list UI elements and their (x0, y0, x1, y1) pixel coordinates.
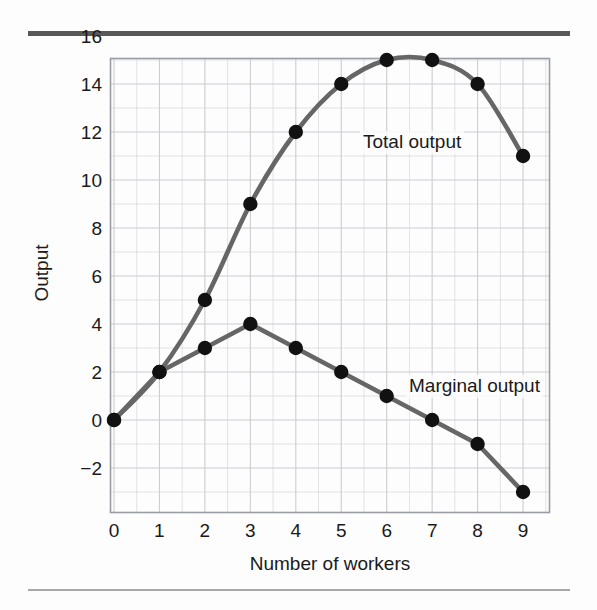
x-axis-title: Number of workers (110, 553, 550, 575)
y-axis-tick-label: 2 (58, 363, 102, 382)
series-label-marginal-output: Marginal output (406, 375, 543, 398)
y-axis-tick-label: 6 (58, 267, 102, 286)
data-point-total-output (243, 197, 257, 211)
data-point-total-output (334, 77, 348, 91)
x-axis-tick-label: 5 (336, 521, 347, 540)
data-point-total-output (289, 125, 303, 139)
data-point-marginal-output (198, 341, 212, 355)
y-axis-tick-label: 12 (58, 123, 102, 142)
data-point-marginal-output (470, 437, 484, 451)
y-axis-tick-label: 0 (58, 411, 102, 430)
y-axis-tick-label: 8 (58, 219, 102, 238)
figure-container: Output Number of workers 1614121086420−2… (0, 0, 597, 610)
x-axis-tick-label: 9 (518, 521, 529, 540)
data-point-marginal-output (107, 413, 121, 427)
x-axis-tick-label: 6 (381, 521, 392, 540)
data-point-marginal-output (289, 341, 303, 355)
x-axis-tick-label: 4 (291, 521, 302, 540)
data-point-total-output (380, 53, 394, 67)
series-label-total-output: Total output (360, 131, 464, 154)
x-axis-tick-label: 7 (427, 521, 438, 540)
y-axis-tick-label: 10 (58, 171, 102, 190)
x-axis-tick-label: 1 (154, 521, 165, 540)
x-axis-tick-label: 3 (245, 521, 256, 540)
y-axis-tick-label: 14 (58, 75, 102, 94)
x-axis-tick-label: 8 (472, 521, 483, 540)
x-axis-tick-label: 2 (200, 521, 211, 540)
data-point-marginal-output (516, 485, 530, 499)
data-point-marginal-output (152, 365, 166, 379)
data-point-marginal-output (380, 389, 394, 403)
y-axis-title: Output (31, 243, 53, 303)
y-axis-tick-label: −2 (58, 459, 102, 478)
y-axis-tick-label: 16 (58, 27, 102, 46)
data-point-marginal-output (334, 365, 348, 379)
y-axis-tick-label: 4 (58, 315, 102, 334)
data-point-total-output (198, 293, 212, 307)
x-axis-tick-label: 0 (109, 521, 120, 540)
data-point-marginal-output (243, 317, 257, 331)
data-point-total-output (516, 149, 530, 163)
data-point-marginal-output (425, 413, 439, 427)
data-point-total-output (470, 77, 484, 91)
data-point-total-output (425, 53, 439, 67)
